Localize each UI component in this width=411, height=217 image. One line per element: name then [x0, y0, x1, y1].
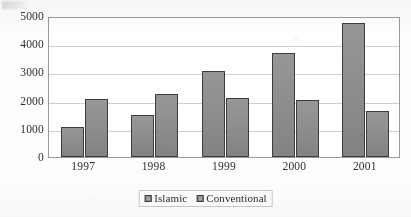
x-tick-label-1998: 1998	[118, 160, 188, 173]
legend-swatch-islamic	[144, 195, 151, 202]
y-tick-label-0: 0	[0, 152, 44, 163]
y-tick-label-3000: 3000	[0, 67, 44, 78]
bar-islamic-2000	[272, 53, 295, 157]
y-tick-label-1000: 1000	[0, 124, 44, 135]
y-tick-label-5000: 5000	[0, 11, 44, 22]
legend-entry-islamic: Islamic	[144, 192, 187, 204]
bar-islamic-1997	[61, 127, 84, 157]
chart-legend: Islamic Conventional	[138, 190, 273, 207]
x-tick-label-1999: 1999	[189, 160, 259, 173]
bar-chart: 010002000300040005000 199719981999200020…	[0, 0, 411, 217]
legend-label-conventional: Conventional	[206, 192, 266, 204]
x-tick-label-1997: 1997	[48, 160, 118, 173]
bar-conventional-2001	[366, 111, 389, 157]
bar-islamic-2001	[342, 23, 365, 157]
plot-area	[48, 17, 400, 158]
x-tick-label-2000: 2000	[259, 160, 329, 173]
y-axis: 010002000300040005000	[0, 17, 44, 158]
y-tick-label-4000: 4000	[0, 39, 44, 50]
legend-swatch-conventional	[196, 195, 203, 202]
y-tick-label-2000: 2000	[0, 96, 44, 107]
bar-islamic-1999	[202, 71, 225, 157]
x-tick-label-2001: 2001	[330, 160, 400, 173]
bar-conventional-1999	[226, 98, 249, 157]
bar-conventional-2000	[296, 100, 319, 157]
bar-conventional-1998	[155, 94, 178, 157]
bar-conventional-1997	[85, 99, 108, 157]
legend-label-islamic: Islamic	[154, 192, 187, 204]
x-axis: 19971998199920002001	[48, 160, 400, 178]
chart-page: 010002000300040005000 199719981999200020…	[0, 0, 411, 217]
bar-group-container	[49, 18, 399, 157]
legend-entry-conventional: Conventional	[196, 192, 266, 204]
bar-islamic-1998	[131, 115, 154, 157]
